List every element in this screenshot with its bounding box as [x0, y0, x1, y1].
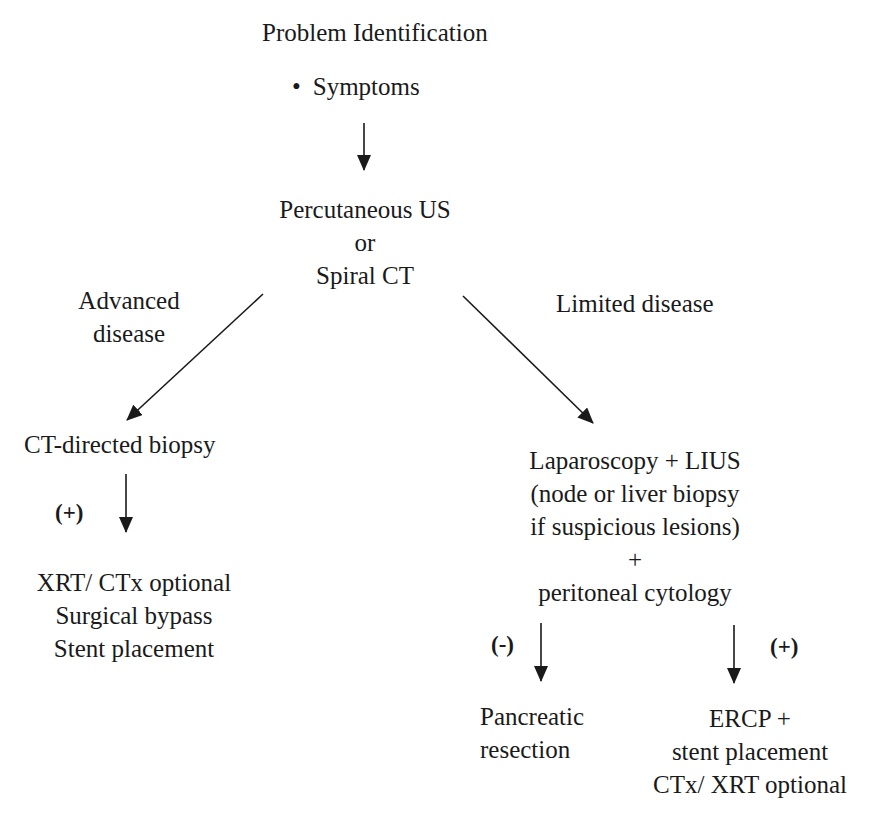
symptoms-item: •Symptoms [292, 70, 420, 103]
problem-title: Problem Identification [262, 19, 488, 46]
limited-label: Limited disease [556, 290, 714, 317]
symptoms-label: Symptoms [313, 73, 420, 100]
edge-label-limited-disease: Limited disease [556, 287, 714, 320]
node-problem-identification: Problem Identification [262, 16, 488, 49]
ercp-line-1: ERCP + [630, 702, 870, 735]
ercp-line-2: stent placement [630, 735, 870, 768]
cytology-negative-text: (-) [491, 632, 514, 657]
treatment-line-3: Stent placement [14, 632, 254, 665]
imaging-line-2: or [250, 226, 480, 259]
bullet-icon: • [292, 73, 301, 100]
node-ct-directed-biopsy: CT-directed biopsy [24, 428, 215, 461]
laparoscopy-line-3: if suspicious lesions) [500, 510, 770, 543]
node-laparoscopy: Laparoscopy + LIUS (node or liver biopsy… [500, 444, 770, 609]
ct-biopsy-label: CT-directed biopsy [24, 431, 215, 458]
resection-line-2: resection [480, 733, 584, 766]
resection-line-1: Pancreatic [480, 700, 584, 733]
edge-label-advanced-disease: Advanced disease [64, 284, 194, 350]
laparoscopy-line-1: Laparoscopy + LIUS [500, 444, 770, 477]
laparoscopy-line-2: (node or liver biopsy [500, 477, 770, 510]
ercp-line-3: CTx/ XRT optional [630, 768, 870, 801]
edge-label-biopsy-positive: (+) [55, 500, 83, 526]
edge-label-cytology-negative: (-) [491, 632, 514, 658]
node-ercp: ERCP + stent placement CTx/ XRT optional [630, 702, 870, 801]
biopsy-positive-text: (+) [55, 500, 83, 525]
node-pancreatic-resection: Pancreatic resection [480, 700, 584, 766]
advanced-line-2: disease [64, 317, 194, 350]
treatment-line-2: Surgical bypass [14, 599, 254, 632]
arrows-layer [0, 0, 885, 815]
cytology-positive-text: (+) [770, 634, 798, 659]
imaging-line-1: Percutaneous US [250, 193, 480, 226]
laparoscopy-line-5: peritoneal cytology [500, 576, 770, 609]
node-imaging: Percutaneous US or Spiral CT [250, 193, 480, 292]
treatment-line-1: XRT/ CTx optional [14, 566, 254, 599]
advanced-line-1: Advanced [64, 284, 194, 317]
edge-label-cytology-positive: (+) [770, 634, 798, 660]
imaging-line-3: Spiral CT [250, 259, 480, 292]
node-advanced-treatment: XRT/ CTx optional Surgical bypass Stent … [14, 566, 254, 665]
laparoscopy-line-4: + [500, 543, 770, 576]
